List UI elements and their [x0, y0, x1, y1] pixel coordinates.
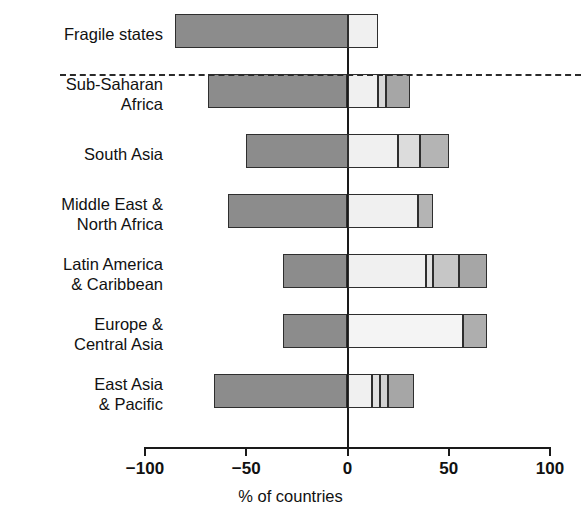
bar-segment: [380, 374, 388, 408]
bar-track: [0, 374, 581, 434]
bar-segment: [208, 74, 348, 108]
bar-segment: [372, 374, 380, 408]
axis-tick-label: 50: [414, 459, 484, 479]
x-axis-title: % of countries: [0, 487, 581, 506]
bar-row: Middle East & North Africa: [0, 194, 581, 254]
bar-track: [0, 194, 581, 254]
bar-track: [0, 14, 581, 74]
bar-segment: [459, 254, 487, 288]
axis-tick: [245, 447, 247, 456]
bar-track: [0, 314, 581, 374]
bar-segment: [175, 14, 347, 48]
bar-segment: [348, 374, 372, 408]
axis-tick: [448, 447, 450, 456]
bar-segment: [418, 194, 432, 228]
bar-row: East Asia & Pacific: [0, 374, 581, 434]
bar-row: Europe & Central Asia: [0, 314, 581, 374]
axis-tick-label: 0: [313, 459, 383, 479]
axis-tick-label: 100: [515, 459, 581, 479]
bar-segment: [348, 14, 378, 48]
bar-segment: [214, 374, 348, 408]
bar-segment: [246, 134, 347, 168]
bar-segment: [463, 314, 487, 348]
bar-row: Sub-Saharan Africa: [0, 74, 581, 134]
bar-segment: [228, 194, 347, 228]
x-axis: −100−50050100 % of countries: [0, 447, 581, 517]
bar-segment: [420, 134, 448, 168]
plot-area: Fragile statesSub-Saharan AfricaSouth As…: [0, 0, 581, 447]
axis-tick: [549, 447, 551, 456]
bar-segment: [348, 134, 399, 168]
bar-row: South Asia: [0, 134, 581, 194]
chart-container: Fragile statesSub-Saharan AfricaSouth As…: [0, 0, 581, 517]
bar-track: [0, 254, 581, 314]
bar-segment: [283, 314, 348, 348]
axis-tick: [347, 447, 349, 456]
bar-segment: [348, 194, 419, 228]
bar-segment: [348, 254, 427, 288]
bar-segment: [398, 134, 420, 168]
bar-track: [0, 74, 581, 134]
bar-segment: [378, 74, 386, 108]
fragile-states-separator: [60, 74, 581, 76]
axis-tick: [144, 447, 146, 456]
bar-segment: [386, 74, 410, 108]
bar-segment: [348, 314, 463, 348]
bar-segment: [283, 254, 348, 288]
bar-segment: [348, 74, 378, 108]
bar-row: Fragile states: [0, 14, 581, 74]
bar-segment: [433, 254, 459, 288]
bar-row: Latin America & Caribbean: [0, 254, 581, 314]
axis-tick-label: −50: [211, 459, 281, 479]
axis-tick-label: −100: [110, 459, 180, 479]
bar-track: [0, 134, 581, 194]
bar-segment: [388, 374, 414, 408]
